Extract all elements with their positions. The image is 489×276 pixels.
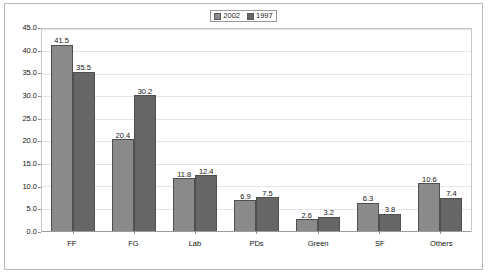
bar-value-label: 10.6 [422, 176, 437, 184]
y-axis-tick-mark [38, 51, 41, 52]
x-axis-labels: FFFGLabPDsGreenSFOthers [41, 237, 472, 251]
legend-swatch-1997 [247, 13, 254, 20]
y-axis-tick-mark [38, 119, 41, 120]
x-axis-tick-mark [379, 231, 380, 234]
bar-sf-1997[interactable]: 3.8 [379, 214, 401, 231]
x-axis-label-lab: Lab [164, 237, 226, 251]
y-axis-tick-label: 40.0 [22, 47, 37, 55]
bar-value-label: 7.4 [446, 190, 456, 198]
bar-fg-2002[interactable]: 20.4 [112, 139, 134, 231]
bar-value-label: 11.8 [177, 171, 191, 179]
bar-value-label: 35.5 [76, 64, 91, 72]
legend-label-2002: 2002 [223, 12, 240, 20]
y-axis-tick-mark [38, 232, 41, 233]
x-axis-tick-mark [440, 231, 441, 234]
legend-entry-1997: 1997 [247, 12, 273, 20]
bar-others-2002[interactable]: 10.6 [418, 183, 440, 231]
plot-outer: 41.535.520.430.211.812.46.97.52.63.26.33… [41, 28, 472, 232]
bar-others-1997[interactable]: 7.4 [440, 198, 462, 231]
x-axis-label-fg: FG [103, 237, 165, 251]
x-axis-label-pds: PDs [226, 237, 288, 251]
y-axis-tick-label: 35.0 [22, 70, 37, 78]
bar-group: 2.63.2 [287, 29, 348, 231]
bar-group: 41.535.5 [42, 29, 103, 231]
bar-value-label: 6.3 [363, 195, 373, 203]
legend-swatch-2002 [214, 13, 221, 20]
y-axis-tick-mark [38, 164, 41, 165]
chart-legend: 2002 1997 [5, 9, 482, 23]
y-axis-tick-label: 15.0 [22, 160, 37, 168]
bar-group: 6.33.8 [348, 29, 409, 231]
chart-frame: 2002 1997 41.535.520.430.211.812.46.97.5… [4, 3, 483, 270]
x-axis-label-green: Green [287, 237, 349, 251]
bar-value-label: 7.5 [262, 190, 272, 198]
bar-value-label: 20.4 [116, 132, 131, 140]
bar-value-label: 12.4 [199, 168, 214, 176]
y-axis-tick-mark [38, 96, 41, 97]
y-axis-tick-label: 20.0 [22, 138, 37, 146]
x-axis-tick-mark [256, 231, 257, 234]
y-axis-tick-mark [38, 187, 41, 188]
plot-area: 41.535.520.430.211.812.46.97.52.63.26.33… [41, 28, 472, 232]
bars-layer: 41.535.520.430.211.812.46.97.52.63.26.33… [42, 29, 471, 231]
y-axis-tick-mark [38, 28, 41, 29]
x-axis-label-ff: FF [41, 237, 103, 251]
x-axis-tick-mark [73, 231, 74, 234]
bar-value-label: 6.9 [240, 193, 250, 201]
y-axis-tick-label: 30.0 [22, 92, 37, 100]
bar-sf-2002[interactable]: 6.3 [357, 203, 379, 231]
bar-value-label: 3.8 [385, 206, 395, 214]
y-axis-tick-label: 5.0 [27, 206, 37, 214]
legend-entry-2002: 2002 [214, 12, 240, 20]
bar-lab-2002[interactable]: 11.8 [173, 178, 195, 231]
bar-group: 20.430.2 [103, 29, 164, 231]
bar-green-2002[interactable]: 2.6 [296, 219, 318, 231]
y-axis-tick-label: 45.0 [22, 24, 37, 32]
x-axis-tick-mark [195, 231, 196, 234]
bar-value-label: 2.6 [302, 212, 312, 220]
legend-box: 2002 1997 [210, 10, 276, 22]
bar-green-1997[interactable]: 3.2 [318, 217, 340, 231]
x-axis-tick-mark [318, 231, 319, 234]
bar-value-label: 3.2 [324, 209, 334, 217]
bar-value-label: 30.2 [138, 88, 153, 96]
x-axis-tick-mark [134, 231, 135, 234]
y-axis-tick-mark [38, 141, 41, 142]
bar-lab-1997[interactable]: 12.4 [195, 175, 217, 231]
bar-pds-2002[interactable]: 6.9 [234, 200, 256, 231]
y-axis-tick-label: 10.0 [22, 183, 37, 191]
x-axis-label-others: Others [410, 237, 472, 251]
y-axis-tick-label: 0.0 [27, 228, 37, 236]
bar-ff-2002[interactable]: 41.5 [51, 45, 73, 231]
bar-pds-1997[interactable]: 7.5 [256, 197, 278, 231]
bar-group: 10.67.4 [410, 29, 471, 231]
y-axis-tick-mark [38, 73, 41, 74]
bar-group: 11.812.4 [165, 29, 226, 231]
x-axis-label-sf: SF [349, 237, 411, 251]
bar-ff-1997[interactable]: 35.5 [73, 72, 95, 231]
bar-group: 6.97.5 [226, 29, 287, 231]
bar-fg-1997[interactable]: 30.2 [134, 95, 156, 231]
y-axis-tick-mark [38, 209, 41, 210]
legend-label-1997: 1997 [256, 12, 273, 20]
bar-value-label: 41.5 [54, 37, 69, 45]
y-axis-tick-label: 25.0 [22, 115, 37, 123]
